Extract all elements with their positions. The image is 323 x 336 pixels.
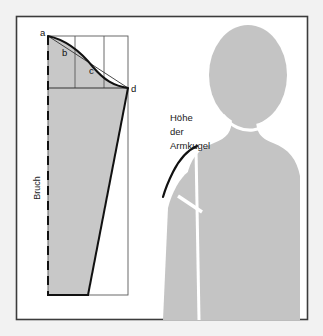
point-label-c: c xyxy=(89,65,94,76)
note-line-3: Armkugel xyxy=(170,140,210,151)
figure-page: Höhe der Armkugel xyxy=(0,0,323,336)
fold-line-label: Bruch xyxy=(32,176,42,200)
point-label-b: b xyxy=(62,47,67,58)
sleeve-cap-diagram: Höhe der Armkugel xyxy=(0,0,323,336)
point-label-a: a xyxy=(40,27,46,38)
note-line-1: Höhe xyxy=(170,112,193,123)
head-shape xyxy=(209,25,287,125)
note-line-2: der xyxy=(170,126,184,137)
point-label-d: d xyxy=(131,83,136,94)
